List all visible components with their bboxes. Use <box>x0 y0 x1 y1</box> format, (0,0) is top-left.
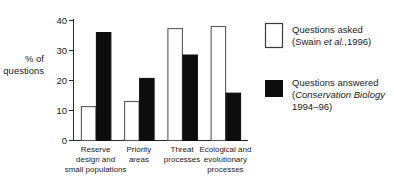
legend-asked-citation-pre: (Swain <box>292 36 324 47</box>
category-label-2: Priorityareas <box>126 145 151 164</box>
category-label-3-line2: processes <box>164 155 200 164</box>
legend-asked-citation-italic: et al. <box>324 36 345 47</box>
legend: Questions asked (Swain et al.,1996) Ques… <box>266 24 387 113</box>
category-label-1-line1: Reserve <box>81 145 111 154</box>
bar-chart-figure: % of questions 40 30 20 10 0 Reservedesi… <box>0 0 394 182</box>
legend-label-answered-line1: Questions answered <box>292 77 379 88</box>
category-label-1: Reservedesign andsmall populations <box>65 145 127 174</box>
bar-4-answered <box>226 93 241 140</box>
y-tick-label-40: 40 <box>56 15 67 26</box>
bar-2-asked <box>125 102 140 141</box>
chart-svg: % of questions 40 30 20 10 0 Reservedesi… <box>0 0 394 182</box>
category-label-3: Threatprocesses <box>164 145 200 164</box>
legend-asked-citation-post: ,1996) <box>344 36 371 47</box>
bar-3-answered <box>183 55 198 141</box>
bar-4-asked <box>211 27 226 141</box>
y-axis-ticks <box>69 21 73 141</box>
y-axis-label-line1: % of <box>25 53 44 64</box>
category-label-4: Ecological andevolutionaryprocesses <box>199 145 251 174</box>
y-tick-label-30: 30 <box>56 45 67 56</box>
category-label-2-line1: Priority <box>126 145 151 154</box>
legend-label-answered-line2: (Conservation Biology <box>292 89 386 100</box>
y-tick-label-0: 0 <box>62 135 67 146</box>
bar-3-asked <box>168 29 183 141</box>
legend-answered-citation-italic: Conservation Biology <box>295 89 386 100</box>
category-label-4-line1: Ecological and <box>199 145 251 154</box>
category-label-4-line2: evolutionary <box>204 155 247 164</box>
bar-1-asked <box>81 107 96 141</box>
bar-group-container <box>81 27 240 141</box>
legend-swatch-questions-asked <box>266 24 283 48</box>
legend-label-asked-line1: Questions asked <box>292 24 363 35</box>
category-label-1-line3: small populations <box>65 165 127 174</box>
category-label-1-line2: design and <box>76 155 115 164</box>
bar-1-answered <box>96 33 111 141</box>
category-label-4-line3: processes <box>207 165 243 174</box>
legend-swatch-questions-answered <box>266 81 283 97</box>
legend-label-asked-line2: (Swain et al.,1996) <box>292 36 371 47</box>
bar-2-answered <box>140 78 155 140</box>
y-axis-label-line2: questions <box>3 65 44 76</box>
category-label-3-line1: Threat <box>171 145 195 154</box>
y-tick-label-20: 20 <box>56 75 67 86</box>
x-axis-category-labels: Reservedesign andsmall populationsPriori… <box>65 145 252 174</box>
y-tick-label-10: 10 <box>56 105 67 116</box>
category-label-2-line2: areas <box>129 155 149 164</box>
legend-label-answered-line3: 1994–96) <box>292 101 332 112</box>
